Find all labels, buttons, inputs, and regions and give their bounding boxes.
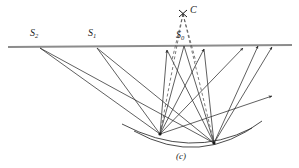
label-s1: S1 xyxy=(88,28,96,38)
figure-caption: (c) xyxy=(176,152,186,161)
right-reflection-point xyxy=(212,141,215,144)
label-s0: S0 xyxy=(176,30,184,40)
label-s2: S2 xyxy=(30,28,38,38)
left-reflection-point xyxy=(158,132,161,135)
label-s1-sub: 1 xyxy=(93,32,96,39)
upgoing-ray-right-c xyxy=(204,49,214,143)
dashed-construction-lines xyxy=(160,14,214,143)
label-c: C xyxy=(190,5,197,15)
label-s2-sub: 2 xyxy=(35,32,38,39)
ray-diagram-canvas xyxy=(0,0,299,168)
inner-reflector-arc xyxy=(122,124,252,143)
label-s0-sub: 0 xyxy=(181,34,184,41)
upgoing-ray-right-b xyxy=(214,47,272,143)
ground-surface-line xyxy=(8,45,292,47)
rays-from-s1 xyxy=(97,48,214,143)
rays-from-s2 xyxy=(40,48,214,143)
ray-s2-to-right-focus xyxy=(40,48,214,143)
ray-s1-to-right-focus xyxy=(97,48,214,143)
ray-s2-to-left-focus xyxy=(40,48,160,134)
ray-s0-to-right-focus xyxy=(184,46,214,143)
seismic-raypath-figure: S2 S1 S0 C (c) xyxy=(0,0,299,168)
dashed-c-to-right-focus xyxy=(183,14,214,143)
label-c-text: C xyxy=(190,4,197,15)
dashed-c-branch-right xyxy=(183,14,196,62)
